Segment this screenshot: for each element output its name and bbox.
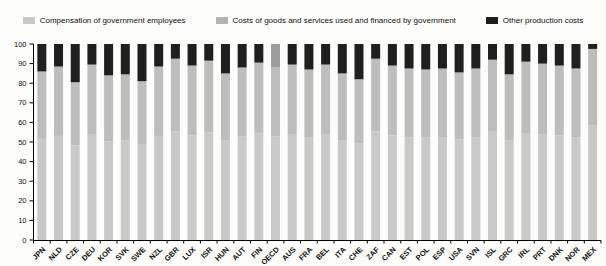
bar-segment-CAN-0 — [388, 135, 397, 240]
bar-segment-DEU-1 — [87, 65, 96, 135]
bar-segment-MEX-1 — [588, 49, 597, 125]
bar-CHE — [354, 44, 363, 240]
bar-segment-NZL-0 — [154, 136, 163, 240]
bar-segment-OECD-0 — [271, 137, 280, 240]
bar-IRL — [521, 44, 530, 240]
bar-NLD — [54, 44, 63, 240]
bar-ISL — [488, 44, 497, 240]
x-category-label: USA — [447, 245, 465, 263]
x-category-label: ITA — [333, 245, 348, 260]
bar-segment-NOR-0 — [571, 137, 580, 240]
bar-segment-DEU-2 — [87, 44, 96, 65]
legend-label: Other production costs — [503, 16, 583, 25]
bar-segment-NZL-1 — [154, 67, 163, 136]
legend-swatch-icon — [486, 17, 498, 24]
bar-segment-AUS-1 — [288, 65, 297, 135]
x-category-label: CAN — [380, 245, 398, 263]
bar-segment-FRA-1 — [304, 69, 313, 137]
bar-segment-KOR-2 — [104, 44, 113, 75]
bar-BEL — [321, 44, 330, 240]
bar-segment-ISR-0 — [204, 132, 213, 240]
legend-label: Compensation of government employees — [40, 16, 186, 25]
bar-segment-LUX-1 — [188, 66, 197, 136]
x-category-label: KOR — [96, 245, 115, 264]
x-category-label: DNK — [547, 245, 565, 263]
y-tick-label: 50 — [18, 138, 26, 147]
legend-item-1: Costs of goods and services used and fin… — [216, 16, 456, 25]
bar-segment-FIN-1 — [254, 63, 263, 134]
bar-segment-GRC-2 — [505, 44, 514, 74]
bar-segment-CZE-2 — [71, 44, 80, 82]
bar-segment-FRA-0 — [304, 138, 313, 240]
bar-segment-CZE-0 — [71, 145, 80, 240]
bar-segment-IRL-2 — [521, 44, 530, 62]
bar-segment-NZL-2 — [154, 44, 163, 67]
bar-USA — [455, 44, 464, 240]
x-category-label: BEL — [314, 245, 331, 262]
bar-segment-GBR-1 — [171, 59, 180, 132]
bar-segment-GRC-0 — [505, 141, 514, 240]
bar-segment-HUN-1 — [221, 73, 230, 140]
bar-segment-CHE-1 — [354, 79, 363, 143]
y-tick-label: 0 — [22, 236, 26, 245]
bar-DNK — [555, 44, 564, 240]
x-category-label: DEU — [80, 245, 98, 263]
bar-GRC — [505, 44, 514, 240]
bar-segment-ZAF-0 — [371, 131, 380, 240]
bar-CZE — [71, 44, 80, 240]
bar-EST — [405, 44, 414, 240]
bar-segment-FIN-2 — [254, 44, 263, 63]
x-category-label: HUN — [213, 245, 231, 263]
bar-segment-EST-2 — [405, 44, 414, 69]
x-category-label: GRC — [496, 245, 515, 264]
x-category-label: SVN — [464, 245, 481, 262]
bar-segment-JPN-2 — [37, 44, 46, 71]
bar-POL — [421, 44, 430, 240]
bar-segment-JPN-1 — [37, 71, 46, 138]
bar-segment-FIN-0 — [254, 134, 263, 240]
bar-ISR — [204, 44, 213, 240]
bar-segment-NLD-0 — [54, 136, 63, 240]
bar-segment-LUX-2 — [188, 44, 197, 66]
bar-segment-ISL-0 — [488, 132, 497, 240]
bar-segment-ISL-2 — [488, 44, 497, 60]
bar-segment-KOR-1 — [104, 75, 113, 141]
legend-swatch-icon — [23, 17, 35, 24]
bar-KOR — [104, 44, 113, 240]
bar-segment-MEX-2 — [588, 44, 597, 49]
chart-page: Compensation of government employeesCost… — [0, 0, 606, 266]
y-tick-label: 30 — [18, 177, 26, 186]
bar-AUT — [238, 44, 247, 240]
bar-segment-IRL-1 — [521, 62, 530, 133]
bar-segment-ITA-2 — [338, 44, 347, 73]
x-category-label: FRA — [297, 245, 315, 263]
bar-segment-OECD-2 — [271, 44, 280, 68]
legend-swatch-icon — [216, 17, 228, 24]
x-category-label: AUS — [280, 245, 298, 263]
x-category-label: CHE — [347, 245, 365, 263]
y-tick-label: 40 — [18, 157, 26, 166]
x-category-label: OECD — [259, 245, 281, 266]
bar-segment-BEL-0 — [321, 135, 330, 240]
bar-segment-AUS-2 — [288, 44, 297, 65]
bar-segment-ISR-1 — [204, 61, 213, 133]
bar-ZAF — [371, 44, 380, 240]
bar-segment-FRA-2 — [304, 44, 313, 69]
bar-HUN — [221, 44, 230, 240]
bar-segment-SWE-1 — [137, 81, 146, 145]
y-tick-label: 10 — [18, 216, 26, 225]
bar-OECD — [271, 44, 280, 240]
x-category-label: POL — [414, 245, 432, 263]
bar-segment-ITA-0 — [338, 140, 347, 240]
y-tick-label: 80 — [18, 79, 26, 88]
bar-segment-AUT-1 — [238, 68, 247, 137]
bar-segment-SVN-2 — [471, 44, 480, 69]
x-category-label: ISR — [199, 245, 215, 261]
y-tick-label: 100 — [14, 40, 27, 49]
bar-segment-NLD-2 — [54, 44, 63, 67]
bar-segment-CHE-2 — [354, 44, 363, 79]
bar-FIN — [254, 44, 263, 240]
bar-segment-NLD-1 — [54, 67, 63, 136]
bar-segment-NOR-1 — [571, 69, 580, 138]
bar-segment-USA-2 — [455, 44, 464, 72]
